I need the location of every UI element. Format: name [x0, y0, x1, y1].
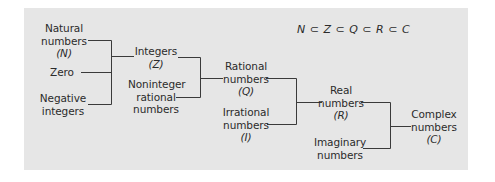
node-label: rational [128, 91, 184, 104]
node-label: Negative [38, 92, 88, 105]
node-label: numbers [314, 149, 366, 162]
node-label: Imaginary [314, 136, 366, 149]
node-zero: Zero [44, 66, 80, 79]
node-integers: Integers (Z) [133, 45, 179, 70]
node-label: numbers [318, 97, 364, 110]
node-label: Complex [410, 108, 458, 121]
node-symbol: (N) [40, 47, 88, 60]
node-symbol: (R) [318, 109, 364, 122]
node-complex-numbers: Complex numbers (C) [410, 108, 458, 146]
node-symbol: (Q) [222, 85, 270, 98]
node-label: numbers [410, 121, 458, 134]
node-symbol: (Z) [133, 58, 179, 71]
node-symbol: (C) [410, 133, 458, 146]
node-label: numbers [40, 35, 88, 48]
node-symbol: (I) [222, 131, 270, 144]
node-label: numbers [128, 103, 184, 116]
node-irrational-numbers: Irrational numbers (I) [222, 106, 270, 144]
node-negative-integers: Negative integers [38, 92, 88, 117]
node-label: numbers [222, 119, 270, 132]
node-label: Integers [133, 45, 179, 58]
node-imaginary-numbers: Imaginary numbers [314, 136, 366, 161]
node-label: integers [38, 105, 88, 118]
node-label: numbers [222, 73, 270, 86]
node-natural-numbers: Natural numbers (N) [40, 22, 88, 60]
node-label: Irrational [222, 106, 270, 119]
node-label: Noninteger [128, 78, 184, 91]
node-rational-numbers: Rational numbers (Q) [222, 60, 270, 98]
node-real-numbers: Real numbers (R) [318, 84, 364, 122]
node-label: Natural [40, 22, 88, 35]
subset-formula: N ⊂ Z ⊂ Q ⊂ R ⊂ C [297, 23, 410, 36]
node-label: Real [318, 84, 364, 97]
node-noninteger-rational-numbers: Noninteger rational numbers [128, 78, 184, 116]
node-label: Rational [222, 60, 270, 73]
node-label: Zero [44, 66, 80, 79]
